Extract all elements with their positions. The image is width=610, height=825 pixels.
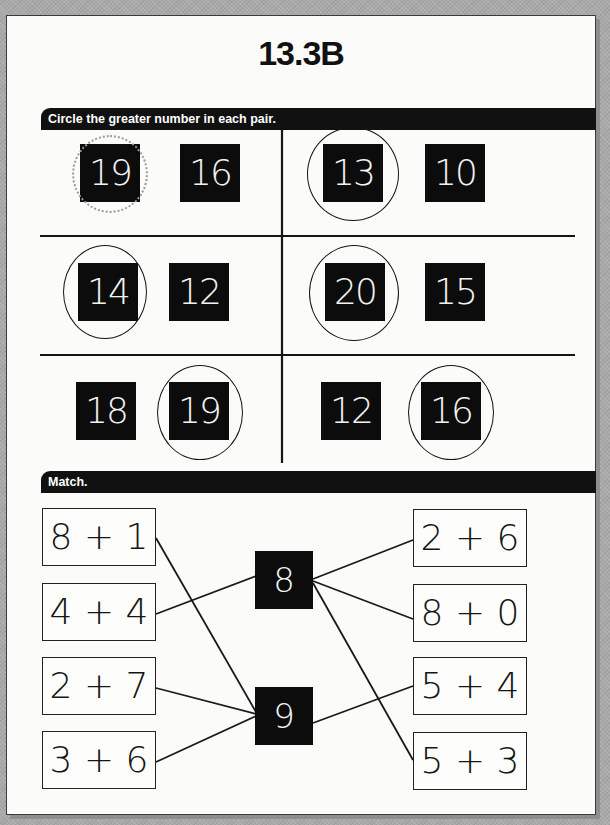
number-tile[interactable]: 19 <box>80 144 140 202</box>
number-tile[interactable]: 10 <box>425 144 485 202</box>
right-expression-box[interactable]: 2 + 6 <box>413 509 527 567</box>
section-header-match: Match. <box>41 471 596 493</box>
center-value-tile[interactable]: 8 <box>255 551 313 609</box>
number-tile[interactable]: 12 <box>169 263 229 321</box>
right-expression-box[interactable]: 8 + 0 <box>413 584 527 642</box>
number-tile[interactable]: 18 <box>76 382 136 440</box>
section-header-circle: Circle the greater number in each pair. <box>41 108 596 130</box>
center-value-tile[interactable]: 9 <box>255 687 313 745</box>
number-tile[interactable]: 13 <box>323 144 383 202</box>
right-expression-box[interactable]: 5 + 3 <box>413 732 527 790</box>
worksheet-title: 13.3B <box>7 34 595 73</box>
left-expression-box[interactable]: 4 + 4 <box>42 583 156 641</box>
right-expression-box[interactable]: 5 + 4 <box>413 657 527 715</box>
number-tile[interactable]: 16 <box>180 144 240 202</box>
number-tile[interactable]: 15 <box>425 263 485 321</box>
number-tile[interactable]: 14 <box>78 263 138 321</box>
left-expression-box[interactable]: 2 + 7 <box>42 657 156 715</box>
number-tile[interactable]: 19 <box>169 382 229 440</box>
number-tile[interactable]: 16 <box>421 382 481 440</box>
number-tile[interactable]: 12 <box>321 382 381 440</box>
left-expression-box[interactable]: 3 + 6 <box>42 731 156 789</box>
left-expression-box[interactable]: 8 + 1 <box>42 508 156 566</box>
number-tile[interactable]: 20 <box>325 263 385 321</box>
